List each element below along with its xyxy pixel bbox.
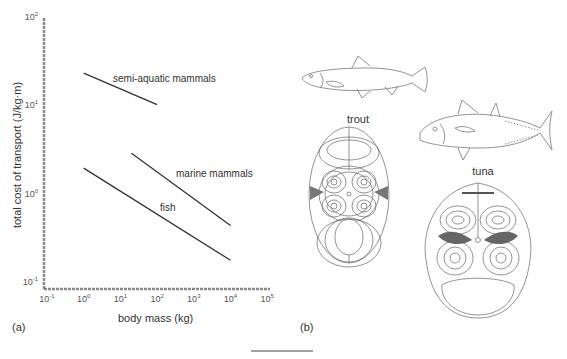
fish-illustrations: [0, 0, 567, 359]
trout-drawing: [302, 56, 427, 98]
trout-cross-section: [309, 127, 389, 267]
tuna-cross-section: [425, 183, 531, 318]
tuna-label: tuna: [472, 165, 493, 177]
trout-label: trout: [347, 113, 369, 125]
tuna-drawing: [420, 100, 552, 160]
panel-label-b: (b): [300, 321, 313, 333]
